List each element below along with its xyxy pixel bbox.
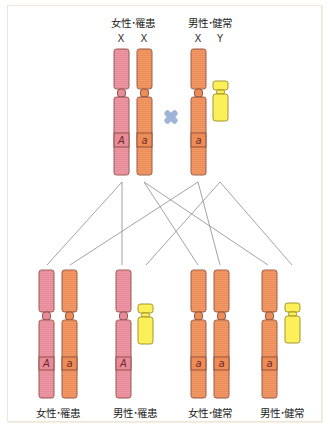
allele-label: A: [117, 135, 125, 146]
inheritance-diagram: A a a: [0, 0, 331, 429]
chromosome-x-normal: a: [262, 270, 277, 398]
line-female-a-to-offspring3: [144, 182, 198, 265]
svg-text:a: a: [195, 358, 201, 369]
svg-text:a: a: [266, 358, 272, 369]
chromosome-x-normal: a: [62, 270, 77, 398]
chromosome-x-normal: a: [137, 49, 152, 175]
chromosome-x-affected: A: [39, 270, 54, 398]
offspring-1-label: 女性･罹患: [36, 405, 80, 420]
line-female-a-to-offspring4: [144, 182, 268, 265]
offspring-2-chromosomes: A: [116, 270, 153, 398]
chromosome-y: [213, 81, 228, 121]
chromosome-x-affected: A: [116, 270, 131, 398]
svg-text:A: A: [119, 358, 127, 369]
offspring-4-label: 男性･健常: [260, 405, 304, 420]
offspring-4-chromosomes: a: [262, 270, 300, 398]
allele-label: a: [141, 135, 147, 146]
line-male-Y-to-offspring4: [220, 182, 292, 265]
svg-text:a: a: [66, 358, 72, 369]
offspring-1-chromosomes: A a: [39, 270, 77, 398]
offspring-3-label: 女性･健常: [188, 405, 232, 420]
chromosome-x-normal: a: [191, 49, 206, 175]
chromosome-y: [138, 304, 153, 344]
line-female-A-to-offspring1: [47, 182, 122, 265]
line-male-X-to-offspring1: [70, 182, 198, 265]
chromosome-x-normal: a: [191, 270, 206, 398]
chromosome-x-normal: a: [214, 270, 229, 398]
inheritance-lines: [47, 182, 292, 265]
chromosome-x-affected: A: [114, 49, 129, 175]
chromosome-y: [285, 303, 300, 343]
cross-icon: [160, 106, 183, 129]
svg-text:a: a: [218, 358, 224, 369]
svg-text:A: A: [42, 358, 50, 369]
allele-label: a: [195, 135, 201, 146]
offspring-2-label: 男性･罹患: [113, 405, 157, 420]
offspring-3-chromosomes: a a: [191, 270, 229, 398]
